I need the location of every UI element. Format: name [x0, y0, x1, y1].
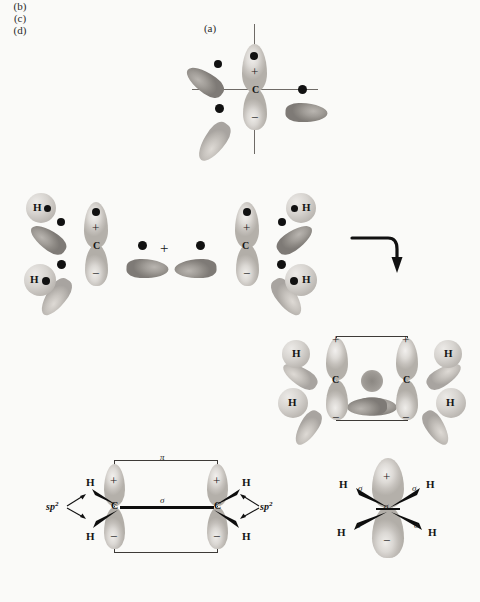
pi-label-c: π: [160, 452, 165, 462]
hydrogen-label-lower-left-c: H: [86, 530, 95, 542]
hydrogen-label-upper-left-c: H: [86, 476, 95, 488]
pi-overlap-line-top: [336, 336, 408, 337]
panel-b-caption: (b): [0, 0, 40, 12]
carbon-label-left-product: C: [332, 374, 339, 385]
plus-sign-upper: +: [251, 65, 258, 78]
hydrogen-label-2-d: H: [337, 526, 346, 538]
hydrogen-label-4-product: H: [446, 396, 455, 408]
hydrogen-label-upper-right-c: H: [242, 476, 251, 488]
hydrogen-label-3-d: H: [426, 478, 435, 490]
carbon-label-right-frag: C: [242, 240, 249, 251]
electron-dot-hydrogen-lower-left-frag: [42, 277, 50, 285]
vertical-axis-line-lower: [254, 126, 255, 154]
electron-dot-hydrogen-upper-left-frag: [44, 205, 51, 212]
minus-sign-left-product: −: [332, 411, 339, 424]
minus-sign-right-frag: −: [243, 267, 250, 280]
electron-dot-p-upper-right-frag: [243, 208, 251, 216]
sp2-label-left-sup: 2: [55, 500, 59, 508]
sp2-label-right-sup: 2: [269, 500, 273, 508]
pi-bond-line-bottom-c: [114, 552, 218, 553]
electron-dot-sp2-right-left-frag: [138, 241, 147, 250]
sigma-bond-cc-c: [120, 506, 214, 509]
sp2-label-left-c: sp2: [46, 500, 58, 512]
hydrogen-label-lower-right-c: H: [242, 530, 251, 542]
hydrogen-sphere-lower-left-frag: [24, 264, 56, 296]
minus-sign-left-frag: −: [92, 267, 99, 280]
sp2-lobe-upper-left: [182, 62, 228, 102]
sp2-lobe-upper-left-frag: [26, 220, 70, 259]
sp2-lobe-right: [285, 103, 328, 123]
electron-dot-p-upper-left-frag: [92, 208, 100, 216]
electron-dot-upper-left: [214, 60, 222, 68]
fragment-join-plus: +: [160, 240, 168, 257]
panel-a: + − C (a): [190, 22, 320, 172]
chemistry-figure: + − C (a) + − C: [0, 0, 480, 602]
sigma-bond-overlap-region: [361, 370, 383, 392]
sp2-arrows-right-c: [236, 492, 260, 520]
pi-overlap-line-bottom: [336, 420, 408, 421]
electron-dot-sp2-left-right-frag: [196, 241, 205, 250]
carbon-label-right-product: C: [403, 374, 410, 385]
hydrogen-label-4-d: H: [428, 526, 437, 538]
panel-b-product-ethylene: + − + − C C H H H H: [262, 326, 472, 436]
plus-sign-right-product: +: [402, 333, 409, 346]
minus-sign-right-product: −: [402, 411, 409, 424]
panel-c-caption: (c): [0, 12, 40, 24]
electron-dot-lower-left: [215, 104, 224, 113]
sp2-lobe-right-left-frag: [126, 259, 169, 279]
carbon-label-a: C: [252, 84, 259, 95]
sp2-label-right-text: sp: [260, 501, 269, 512]
hydrogen-label-lower-left-frag: H: [30, 273, 39, 285]
hydrogen-label-3-product: H: [444, 347, 453, 359]
minus-sign-lower: −: [251, 111, 258, 124]
electron-dot-hydrogen-lower-right-frag: [290, 277, 298, 285]
sp2-lobe-upper-right-frag: [273, 220, 317, 259]
panel-a-caption: (a): [190, 22, 230, 34]
sigma-label-3-d: σ: [412, 483, 416, 493]
hydrogen-label-2-product: H: [288, 396, 297, 408]
electron-dot-right: [298, 85, 307, 94]
electron-dot-sp2-lower-right-frag: [277, 260, 286, 269]
sigma-overlap-lobe-right: [347, 397, 388, 416]
panel-d-caption: (d): [0, 24, 40, 36]
panel-b-right-fragment: + − C H H: [186, 188, 321, 308]
plus-sign-left-product: +: [332, 333, 339, 346]
sigma-label-1-d: σ: [358, 483, 362, 493]
hydrogen-label-upper-left-frag: H: [33, 201, 42, 213]
bent-reaction-arrow: [350, 233, 410, 277]
sp2-lobe-lower-left: [193, 118, 235, 166]
carbon-label-left-frag: C: [93, 240, 100, 251]
hydrogen-label-1-d: H: [339, 478, 348, 490]
electron-dot-upper: [250, 52, 258, 60]
wedge-bonds-d: [342, 480, 434, 544]
panel-c: π σ + − + − C C H H H H sp2: [60, 452, 290, 572]
plus-sign-right-frag: +: [243, 221, 250, 234]
hydrogen-label-1-product: H: [292, 347, 301, 359]
hydrogen-label-lower-right-frag: H: [302, 273, 311, 285]
sp2-arrows-left-c: [66, 492, 90, 520]
pi-bond-line-top-c: [114, 460, 218, 461]
electron-dot-sp2-upper-right-frag: [278, 218, 286, 226]
electron-dot-sp2-lower-left-frag: [57, 260, 66, 269]
sp2-label-right-c: sp2: [260, 500, 272, 512]
electron-dot-hydrogen-upper-right-frag: [291, 205, 298, 212]
panel-d: + − σ H H H H σ σ σ σ: [330, 452, 450, 572]
sigma-label-c: σ: [160, 495, 164, 505]
sigma-label-2-d: σ: [356, 520, 360, 530]
electron-dot-sp2-upper-left-frag: [57, 218, 65, 226]
sp2-lobe-left-right-frag: [174, 259, 217, 279]
plus-sign-left-frag: +: [92, 221, 99, 234]
sigma-label-4-d: σ: [414, 520, 418, 530]
panel-b-left-fragment: + − C H H: [22, 188, 157, 308]
sp2-label-left-text: sp: [46, 501, 55, 512]
hydrogen-label-upper-right-frag: H: [302, 201, 311, 213]
